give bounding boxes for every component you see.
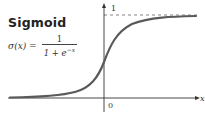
asymptote-label: 1: [111, 4, 116, 13]
origin-label: 0: [108, 101, 113, 110]
y-axis-arrow-icon: [102, 3, 106, 8]
sigmoid-plot: 1 0 x: [0, 0, 205, 113]
x-axis-label: x: [200, 94, 205, 103]
sigmoid-curve: [10, 16, 196, 98]
